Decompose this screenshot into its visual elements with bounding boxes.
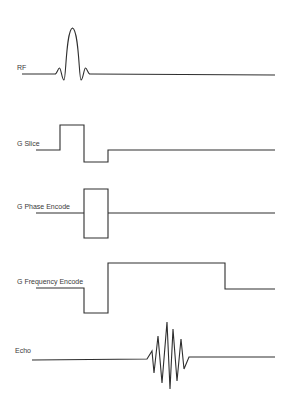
g-frequency-encode-waveform bbox=[36, 263, 275, 313]
waveform-canvas bbox=[0, 0, 296, 398]
g-slice-label: G Slice bbox=[17, 140, 40, 147]
g-phase-encode-waveform bbox=[36, 189, 275, 238]
g-phase-encode-label: G Phase Encode bbox=[17, 203, 70, 210]
echo-label: Echo bbox=[15, 347, 31, 354]
echo-waveform bbox=[32, 322, 275, 389]
pulse-sequence-diagram: RF G Slice G Phase Encode G Frequency En… bbox=[0, 0, 296, 398]
g-frequency-encode-label: G Frequency Encode bbox=[17, 278, 83, 285]
g-slice-waveform bbox=[36, 125, 275, 162]
rf-label: RF bbox=[17, 64, 26, 71]
rf-waveform bbox=[22, 28, 275, 80]
